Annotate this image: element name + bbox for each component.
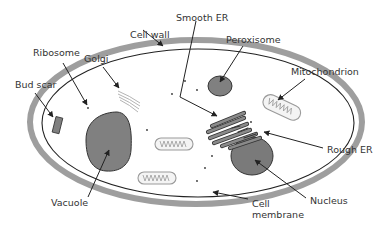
label-cell-membrane: Cell membrane [252,198,304,220]
label-peroxisome: Peroxisome [226,34,281,45]
yeast-cell-diagram: Smooth ER Peroxisome Cell wall Ribosome … [0,0,382,230]
label-vacuole: Vacuole [51,197,88,208]
label-rough-er: Rough ER [327,144,373,155]
label-nucleus: Nucleus [310,195,348,206]
vacuole [86,112,131,171]
label-mitochondrion: Mitochondrion [291,66,359,77]
mitochondrion-2 [155,138,193,150]
mitochondrion-3 [138,172,176,184]
label-cell-membrane-line2: membrane [252,209,304,220]
label-ribosome: Ribosome [33,47,80,58]
label-golgi: Golgi [84,53,108,64]
label-bud-scar: Bud scar [15,79,57,90]
label-cell-wall: Cell wall [130,29,170,40]
peroxisome [208,76,232,96]
label-cell-membrane-line1: Cell [252,198,304,209]
label-smooth-er: Smooth ER [176,12,228,23]
